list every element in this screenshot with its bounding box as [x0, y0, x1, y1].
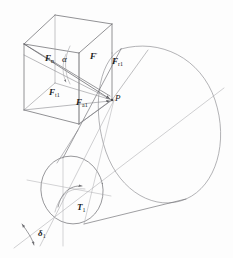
label-alpha-symbol: α [62, 54, 67, 64]
label-ft1-subscript: t1 [55, 92, 60, 98]
pitch-cone-generator-line [40, 100, 114, 246]
diagram-canvas [0, 0, 233, 258]
label-fr1-subscript: r1 [118, 61, 123, 67]
pitch-cone-angle-arc [22, 224, 34, 245]
label-t1-symbol: T [77, 202, 83, 212]
label-point-p: P [115, 94, 121, 103]
force-vector-ft1 [24, 101, 110, 110]
horizontal-construction-line [27, 180, 111, 196]
cone-axis-line [14, 88, 224, 248]
cone-bottom-generator [84, 199, 186, 224]
label-pitch-cone-angle: δ1 [38, 229, 46, 238]
point-p-marker [111, 99, 114, 102]
label-delta1-symbol: δ [38, 228, 43, 238]
force-vector-group [24, 44, 148, 124]
label-force-axial: Fa1 [76, 98, 88, 107]
force-parallelepiped [24, 15, 112, 124]
label-fa1-subscript: a1 [82, 102, 88, 108]
label-fprime-mark: ′ [96, 52, 97, 58]
label-fn-subscript: n [51, 58, 54, 64]
label-force-tangential: Ft1 [49, 88, 60, 97]
label-pressure-angle: α [62, 55, 67, 64]
label-force-radial: Fr1 [112, 57, 123, 66]
label-p-symbol: P [115, 93, 121, 103]
label-force-normal: Fn [45, 54, 54, 63]
bevel-gear-force-diagram: Fn α F′ Fr1 Ft1 Fa1 P T1 δ1 [0, 0, 233, 258]
pitch-cone-body [63, 46, 221, 224]
label-force-f-prime: F′ [90, 52, 97, 61]
cube-to-cone-link-left [57, 130, 78, 163]
label-t1-subscript: 1 [83, 207, 86, 213]
label-delta1-subscript: 1 [43, 233, 46, 239]
label-torque: T1 [77, 203, 86, 212]
large-end-pitch-circle [98, 46, 220, 203]
